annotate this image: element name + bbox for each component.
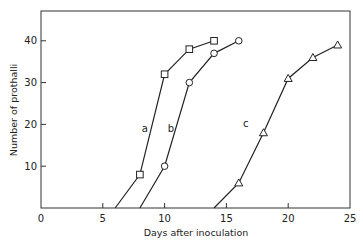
curve-label: a (142, 123, 148, 134)
x-tick-label: 20 (282, 213, 295, 224)
y-tick-label: 40 (24, 35, 37, 46)
x-tick-label: 10 (158, 213, 171, 224)
circle-marker-icon (161, 163, 168, 170)
series-c: c (214, 41, 342, 208)
triangle-marker-icon (235, 179, 243, 186)
circle-marker-icon (186, 79, 193, 86)
y-axis-label: Number of prothalli (8, 64, 19, 156)
triangle-marker-icon (309, 54, 317, 61)
circle-marker-icon (211, 50, 218, 57)
x-axis-label: Days after inoculation (144, 227, 249, 238)
series-line (214, 45, 338, 208)
x-tick-label: 25 (344, 213, 357, 224)
square-marker-icon (161, 71, 168, 78)
x-tick-label: 15 (220, 213, 233, 224)
plot-frame (41, 11, 350, 208)
series-b: b (140, 38, 242, 209)
square-marker-icon (186, 46, 193, 53)
square-marker-icon (137, 171, 144, 178)
y-tick-label: 20 (24, 119, 37, 130)
y-tick-label: 10 (24, 161, 37, 172)
series-line (140, 41, 239, 208)
series-group: abc (115, 38, 341, 209)
square-marker-icon (211, 38, 218, 45)
triangle-marker-icon (259, 129, 267, 136)
curve-label: c (243, 118, 249, 129)
x-tick-label: 5 (100, 213, 106, 224)
line-chart: 051015202510203040 abc Days after inocul… (0, 0, 363, 243)
series-a: a (115, 38, 217, 209)
x-tick-label: 0 (38, 213, 44, 224)
series-line (115, 41, 214, 208)
y-tick-label: 30 (24, 77, 37, 88)
triangle-marker-icon (334, 41, 342, 48)
circle-marker-icon (235, 38, 242, 45)
curve-label: b (168, 123, 174, 134)
